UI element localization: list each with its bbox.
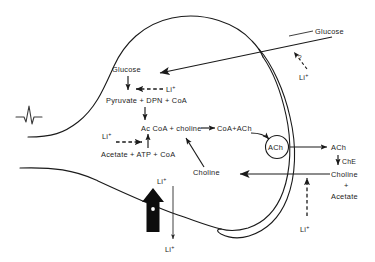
che-label: ChE — [342, 158, 356, 165]
li-external-top-label: Li+ — [299, 72, 309, 82]
li-influx-fat-arrow — [142, 188, 164, 232]
glucose-internal-label: Glucose — [112, 65, 141, 74]
choline-internal-label: Choline — [193, 168, 220, 177]
question-mark-label: ? — [298, 54, 302, 61]
glucose-external-label: Glucose — [315, 27, 344, 36]
glucose-external-leader — [289, 31, 313, 36]
ach-vesicle-label: ACh — [268, 143, 283, 152]
action-potential-icon — [16, 106, 42, 124]
acetate-line-label: Acetate + ATP + CoA — [101, 150, 175, 159]
synapse-diagram-canvas: Glucose ? Li+ Glucose Li+ Pyruvate + DPN… — [0, 0, 375, 262]
plus-sign-label: + — [344, 181, 349, 190]
synapse-diagram: Glucose ? Li+ Glucose Li+ Pyruvate + DPN… — [0, 0, 375, 262]
li-acetate-label: Li+ — [102, 131, 112, 141]
ach-into-vesicle-arrow — [251, 133, 269, 139]
li-efflux-label: Li+ — [165, 244, 175, 254]
li-influx-label: Li+ — [157, 176, 167, 186]
choline-external-label: Choline — [331, 170, 358, 179]
li-cleft-label: Li+ — [300, 224, 310, 234]
pyruvate-line-label: Pyruvate + DPN + CoA — [106, 96, 187, 105]
choline-to-accoa-arrow — [186, 138, 204, 167]
acetate-external-label: Acetate — [331, 192, 358, 201]
coa-ach-label: CoA+ACh — [217, 124, 252, 133]
accoa-choline-label: Ac CoA + choline — [141, 124, 202, 133]
ach-released-label: ACh — [331, 143, 346, 152]
li-glycolysis-label: Li+ — [166, 84, 176, 94]
